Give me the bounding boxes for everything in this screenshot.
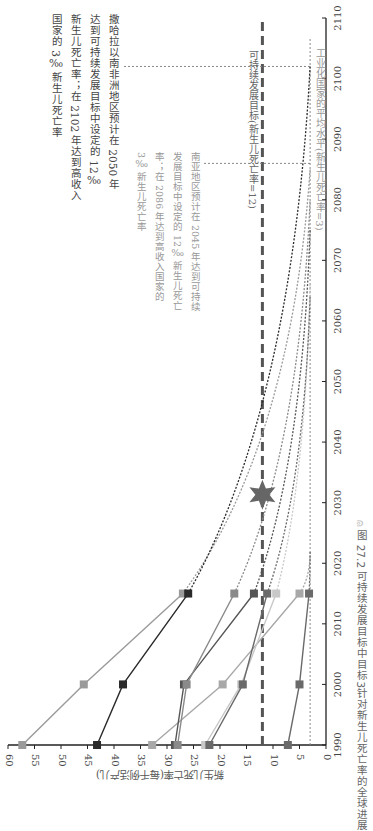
data-marker: [80, 680, 88, 688]
value-tick-label: 10: [269, 754, 280, 767]
figure-icon: ⍝: [355, 520, 367, 530]
annotation-line: 率；在 2086 年达到高收入国家的: [150, 152, 168, 362]
data-marker: [305, 590, 313, 598]
data-marker: [205, 741, 213, 749]
observed-line: [205, 594, 276, 745]
year-tick-label: 2040: [332, 429, 343, 454]
value-tick-label: 50: [57, 754, 68, 767]
data-marker: [239, 680, 247, 688]
y-axis-label: 新生儿死亡率(每千例活产儿): [60, 768, 260, 783]
observed-line: [178, 594, 235, 745]
observed-line: [22, 594, 183, 745]
data-marker: [119, 680, 127, 688]
year-tick-label: 2080: [332, 187, 343, 212]
annotation-line: 撒哈拉以南非洲地区预计在 2050 年: [103, 14, 122, 244]
value-tick-label: 30: [163, 754, 174, 767]
data-marker: [174, 741, 182, 749]
caption-text: 可持续发展目标中目标3针对新生儿死亡率的全球进展: [355, 571, 367, 831]
star-icon: [249, 480, 275, 510]
annotation-line: 达到可持续发展目标中设定的 12‰: [84, 14, 103, 244]
year-tick-label: 2100: [332, 66, 343, 91]
data-marker: [296, 590, 304, 598]
year-tick-label: 2070: [332, 248, 343, 273]
figure-caption: ⍝ 图 27.2 可持续发展目标中目标3针对新生儿死亡率的全球进展: [354, 520, 369, 831]
data-marker: [183, 680, 191, 688]
data-marker: [230, 590, 238, 598]
value-tick-label: 55: [30, 754, 41, 767]
data-marker: [250, 590, 258, 598]
observed-line: [152, 594, 299, 745]
industrialized-average-label: 工业化国家的平均水平(新生儿死亡率=3): [312, 48, 327, 231]
year-tick-label: 2010: [332, 611, 343, 636]
value-tick-label: 15: [242, 754, 253, 767]
data-marker: [263, 590, 271, 598]
observed-line: [288, 594, 309, 745]
annotation-line: 3‰ 新生儿死亡率: [132, 152, 150, 362]
annotation-line: 国家的 3‰ 新生儿死亡率: [46, 14, 65, 244]
data-marker: [272, 590, 280, 598]
value-tick-label: 5: [295, 754, 306, 760]
year-tick-label: 2110: [332, 5, 343, 30]
value-tick-label: 20: [216, 754, 227, 767]
value-tick-label: 60: [4, 754, 15, 767]
data-marker: [93, 741, 101, 749]
projection-line: [267, 297, 310, 594]
figure-number: 图 27.2: [355, 530, 367, 568]
year-tick-label: 2000: [332, 672, 343, 697]
south-asia-annotation: 南亚地区预计在 2045 年达到可持续 发展目标中设定的 12‰ 新生儿死亡 率…: [132, 152, 204, 362]
data-marker: [184, 590, 192, 598]
year-tick-label: 1990: [332, 732, 343, 757]
data-marker: [148, 741, 156, 749]
year-tick-label: 2020: [332, 551, 343, 576]
year-tick-label: 2050: [332, 369, 343, 394]
data-marker: [219, 680, 227, 688]
data-marker: [18, 741, 26, 749]
year-tick-label: 2060: [332, 308, 343, 333]
annotation-line: 南亚地区预计在 2045 年达到可持续: [186, 152, 204, 362]
year-tick-label: 2030: [332, 490, 343, 515]
value-tick-label: 25: [189, 754, 200, 767]
value-tick-label: 0: [322, 754, 333, 760]
sdg-target-label: 可持续发展目标(新生儿死亡率=12): [245, 50, 260, 209]
value-tick-label: 35: [136, 754, 147, 767]
sub-saharan-africa-annotation: 撒哈拉以南非洲地区预计在 2050 年 达到可持续发展目标中设定的 12‰ 新生…: [46, 14, 122, 244]
observed-line: [97, 594, 188, 745]
projection-line: [254, 230, 310, 594]
annotation-line: 新生儿死亡率；在 2102 年达到高收入: [65, 14, 84, 244]
data-marker: [296, 680, 304, 688]
data-marker: [284, 741, 292, 749]
value-tick-label: 40: [110, 754, 121, 767]
projection-line: [300, 557, 311, 593]
observed-line: [175, 594, 254, 745]
annotation-line: 发展目标中设定的 12‰ 新生儿死亡: [168, 152, 186, 362]
year-tick-label: 2090: [332, 126, 343, 151]
value-tick-label: 45: [83, 754, 94, 767]
